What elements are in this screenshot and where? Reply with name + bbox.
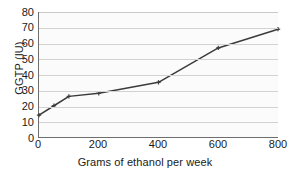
y-tick-label: 20 [12, 101, 34, 112]
x-tick-label: 0 [18, 139, 58, 150]
x-axis-label: Grams of ethanol per week [0, 156, 290, 168]
grid-line [39, 91, 278, 92]
grid-line [39, 75, 278, 76]
grid-line [39, 122, 278, 123]
x-tick-label: 800 [258, 139, 290, 150]
series-line [39, 29, 278, 115]
chart-figure: GGTP (IU) 01020304050607080 020040060080… [0, 0, 290, 174]
y-tick-label: 50 [12, 54, 34, 65]
x-axis-tick-labels: 0200400600800 [0, 139, 290, 153]
x-tick-label: 200 [78, 139, 118, 150]
x-tick-label: 400 [138, 139, 178, 150]
plot-area [38, 12, 278, 138]
grid-line [39, 107, 278, 108]
y-tick-label: 10 [12, 117, 34, 128]
y-tick-label: 80 [12, 7, 34, 18]
grid-line [39, 44, 278, 45]
y-tick-label: 40 [12, 70, 34, 81]
grid-line [39, 59, 278, 60]
grid-line [39, 28, 278, 29]
y-tick-label: 60 [12, 38, 34, 49]
x-tick-label: 600 [198, 139, 238, 150]
y-tick-label: 30 [12, 85, 34, 96]
y-tick-label: 70 [12, 22, 34, 33]
